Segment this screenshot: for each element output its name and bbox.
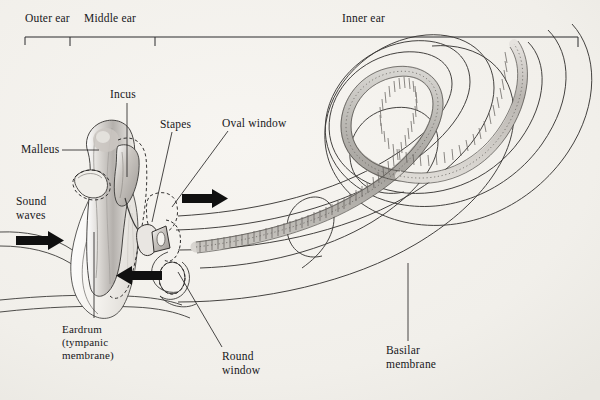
label-round-window-line1: Round [222,350,254,363]
scale-label-middle-ear: Middle ear [84,12,136,25]
scale-label-outer-ear: Outer ear [25,12,70,25]
label-stapes: Stapes [160,118,191,131]
label-incus: Incus [110,88,136,101]
label-sound-waves-line1: Sound [16,195,46,208]
label-oval-window: Oval window [222,117,286,130]
scale-label-inner-ear: Inner ear [342,12,385,25]
label-sound-waves-line2: waves [16,209,46,222]
label-malleus: Malleus [21,143,59,156]
label-round-window-line2: window [222,364,260,377]
label-eardrum-line3: membrane) [62,349,114,361]
label-basilar-line2: membrane [386,358,436,371]
label-eardrum-line1: Eardrum [62,323,102,335]
label-eardrum-line2: (tympanic [62,336,108,348]
label-basilar-line1: Basilar [386,344,420,357]
ear-anatomy-figure: Outer ear Middle ear Inner ear Incus Mal… [0,0,600,400]
